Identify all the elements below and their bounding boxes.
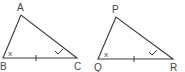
angle-c-check-mark (55, 49, 63, 54)
triangle-pqr: P Q R x (94, 4, 177, 72)
triangle-abc: A B C x (0, 2, 81, 72)
vertex-label-b: B (0, 61, 7, 72)
vertex-label-q: Q (94, 62, 102, 72)
vertex-label-c: C (74, 61, 81, 72)
angle-b-label-x: x (8, 49, 12, 58)
vertex-label-p: P (112, 4, 119, 15)
congruent-triangles-diagram: A B C x P Q R x (0, 0, 185, 72)
triangle-pqr-outline (98, 17, 173, 59)
vertex-label-r: R (170, 62, 177, 72)
angle-r-check-mark (149, 50, 157, 55)
vertex-label-a: A (17, 2, 24, 13)
angle-q-label-x: x (104, 50, 108, 59)
triangle-abc-outline (3, 15, 77, 58)
